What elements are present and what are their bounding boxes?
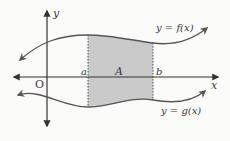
f-curve-label: y = f(x) — [155, 22, 194, 33]
region-A-label: A — [114, 65, 123, 78]
b-label: b — [156, 66, 162, 77]
origin-label: O — [35, 78, 44, 91]
area-between-curves-diagram: y x O a b A y = f(x) y = g(x) — [0, 0, 230, 141]
g-curve-label: y = g(x) — [160, 105, 201, 116]
y-axis-label: y — [52, 7, 60, 20]
a-label: a — [81, 66, 87, 77]
x-axis-label: x — [211, 79, 218, 92]
